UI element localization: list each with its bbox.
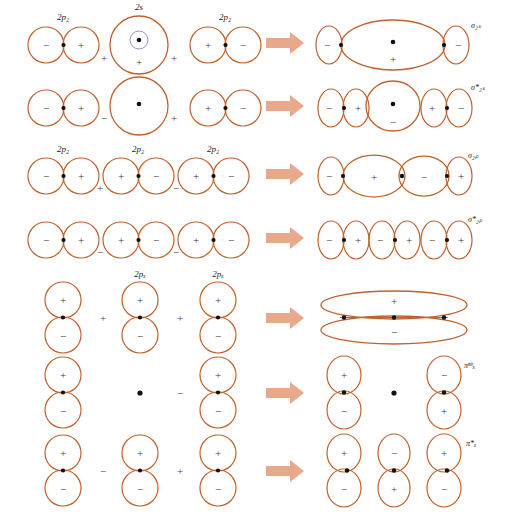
- row-sigma-2p-star: − + − + − − + − − +: [28, 215, 483, 259]
- lobe-sign: −: [326, 234, 332, 246]
- orbital-label: 2p₂: [57, 144, 69, 154]
- lobe-sign: +: [137, 447, 143, 459]
- molecular-orbital-pi-x-star: + − − + + − π*ₓ: [327, 434, 476, 507]
- atomic-orbital-2pz-1: − + 2p₂: [28, 144, 99, 194]
- lobe-sign: +: [193, 234, 199, 246]
- lobe-sign: −: [43, 234, 49, 246]
- lobe-sign: +: [215, 294, 221, 306]
- right-arrow-icon: [266, 307, 304, 329]
- lobe-sign: −: [43, 39, 49, 51]
- lobe-sign: +: [341, 369, 347, 381]
- atomic-orbital-2pz-2: + −: [103, 222, 174, 258]
- lobe-sign: +: [60, 447, 66, 459]
- lobe-sign: −: [391, 326, 397, 338]
- atomic-orbital-2px-3: + − 2pₓ: [200, 269, 236, 353]
- atomic-orbital-2pz-left: − + 2p₂: [28, 12, 99, 63]
- molecular-orbital-sigma-2p-star: − + − + − + σ*₂ₚ: [318, 215, 483, 259]
- orbital-label: 2p₂: [57, 12, 69, 22]
- lobe-sign: +: [406, 234, 412, 246]
- lobe-sign: +: [355, 234, 361, 246]
- right-arrow-icon: [266, 95, 304, 117]
- atomic-orbital-2px-3: + −: [200, 357, 236, 428]
- mo-label: σ*₂ₚ: [468, 215, 483, 224]
- lobe-sign: −: [441, 369, 447, 381]
- lobe-sign: −: [240, 102, 246, 114]
- lobe-sign: +: [371, 171, 377, 183]
- minus-operator: −: [177, 387, 183, 399]
- atomic-orbital-2pz-left: − +: [28, 90, 99, 126]
- lobe-sign: +: [391, 295, 397, 307]
- lobe-sign: −: [43, 170, 49, 182]
- plus-operator: +: [177, 312, 183, 324]
- atomic-orbital-2px-2: + −: [122, 435, 158, 506]
- plus-operator: +: [171, 112, 177, 124]
- mo-label: πⁿᵇₓ: [464, 361, 475, 370]
- right-arrow-icon: [266, 163, 304, 185]
- lobe-sign: −: [421, 171, 427, 183]
- minus-operator: −: [173, 246, 179, 258]
- minus-operator: −: [173, 182, 179, 194]
- lobe-sign: −: [43, 102, 49, 114]
- right-arrow-icon: [266, 227, 304, 249]
- lobe-sign: +: [205, 39, 211, 51]
- atomic-orbital-2s: [110, 77, 168, 135]
- plus-operator: +: [100, 312, 106, 324]
- lobe-sign: −: [458, 102, 464, 114]
- minus-operator: −: [97, 246, 103, 258]
- lobe-sign: +: [78, 170, 84, 182]
- center-node-dot: [137, 390, 142, 395]
- atomic-orbital-2pz-3: + − 2p₂: [178, 144, 249, 194]
- lobe-sign: −: [153, 170, 159, 182]
- lobe-sign: +: [215, 447, 221, 459]
- row-pi-x-star: + − − + − + + − + −: [45, 434, 476, 507]
- molecular-orbital-sigma-2s: − + − σ₂ₛ: [316, 20, 482, 70]
- atomic-orbital-2pz-right: + − 2p₂: [190, 12, 261, 63]
- lobe-sign: +: [390, 53, 396, 65]
- minus-operator: −: [101, 112, 107, 124]
- orbital-label: 2pₓ: [212, 269, 224, 279]
- atomic-orbital-2px-1: + −: [45, 435, 81, 506]
- mo-label: σ₂ₛ: [471, 21, 482, 30]
- row-sigma-2s-star: − + − + + − − + −: [28, 77, 486, 135]
- lobe-sign: −: [240, 39, 246, 51]
- lobe-sign: −: [60, 330, 66, 342]
- molecular-orbital-pi-x-nb: + − − + πⁿᵇₓ: [327, 356, 475, 429]
- lobe-sign: −: [215, 405, 221, 417]
- lobe-sign: −: [228, 170, 234, 182]
- plus-operator: +: [177, 465, 183, 477]
- lobe-sign: +: [215, 369, 221, 381]
- lobe-sign: −: [326, 170, 332, 182]
- lobe-sign: +: [458, 170, 464, 182]
- lobe-sign: +: [137, 294, 143, 306]
- row-pi-x: + − + + − 2pₓ + + − 2pₓ: [45, 269, 467, 353]
- lobe-sign: −: [60, 405, 66, 417]
- atomic-orbital-2s: + 2s: [110, 2, 168, 74]
- lobe-sign: +: [118, 170, 124, 182]
- row-pi-x-nb: + − − + − + − − +: [45, 356, 475, 429]
- lobe-sign: −: [390, 116, 396, 128]
- lobe-sign: −: [60, 483, 66, 495]
- lobe-sign: −: [377, 234, 383, 246]
- lobe-sign: −: [137, 330, 143, 342]
- lobe-sign: −: [137, 483, 143, 495]
- lobe-sign: +: [118, 234, 124, 246]
- plus-operator: +: [101, 52, 107, 64]
- lobe-sign: −: [341, 483, 347, 495]
- atomic-orbital-2pz-right: + −: [190, 90, 261, 126]
- right-arrow-icon: [266, 382, 304, 404]
- atomic-orbital-2px-1: + −: [45, 357, 81, 428]
- mo-label: π*ₓ: [466, 439, 476, 448]
- lobe-sign: +: [78, 39, 84, 51]
- lobe-sign: +: [341, 447, 347, 459]
- lobe-sign: −: [326, 102, 332, 114]
- lobe-sign: −: [228, 234, 234, 246]
- atomic-orbital-2px-1: + −: [45, 282, 81, 353]
- lobe-sign: +: [78, 234, 84, 246]
- mo-label: σ₂ₚ: [468, 151, 479, 160]
- lobe-sign: +: [136, 56, 142, 68]
- lobe-sign: −: [391, 447, 397, 459]
- lobe-sign: −: [429, 234, 435, 246]
- lobe-sign: −: [215, 483, 221, 495]
- lobe-sign: −: [324, 39, 330, 51]
- lobe-sign: +: [205, 102, 211, 114]
